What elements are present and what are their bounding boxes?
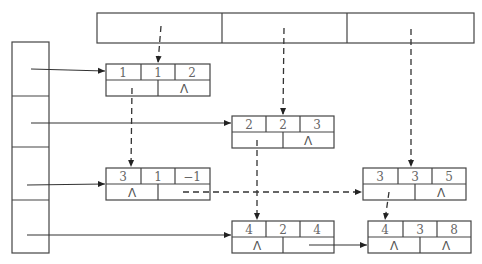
- node-n3: 3 1 −1 Λ: [106, 168, 210, 200]
- node-n5: 4 2 4 Λ: [232, 221, 334, 253]
- node-value: 5: [445, 170, 453, 184]
- node-n4: 3 3 5 Λ: [363, 168, 466, 200]
- node-n1: 1 1 2 Λ: [106, 64, 210, 96]
- node-row: 3: [119, 170, 127, 184]
- node-right: Λ: [437, 186, 446, 200]
- node-col: 2: [279, 118, 287, 132]
- node-right: Λ: [304, 134, 313, 148]
- node-value: 3: [313, 118, 321, 132]
- node-down: Λ: [128, 186, 137, 200]
- node-n2: 2 2 3 Λ: [232, 116, 334, 148]
- node-row: 4: [381, 223, 389, 237]
- node-value: 4: [313, 223, 321, 237]
- node-value: 8: [450, 223, 458, 237]
- node-col: 2: [279, 223, 287, 237]
- node-row: 4: [245, 223, 253, 237]
- node-col: 1: [154, 66, 162, 80]
- node-col: 3: [411, 170, 419, 184]
- node-value: −1: [183, 170, 201, 184]
- orthogonal-list-diagram: 1 1 2 Λ 2 2 3 Λ 3 1 −1 Λ 3 3: [0, 0, 482, 264]
- node-row: 1: [119, 66, 127, 80]
- node-down: Λ: [390, 239, 399, 253]
- node-value: 2: [188, 66, 196, 80]
- column-head-frame: [97, 13, 474, 43]
- node-down: Λ: [253, 239, 262, 253]
- node-col: 1: [154, 170, 162, 184]
- row-head-array: [12, 42, 49, 253]
- node-right: Λ: [442, 239, 451, 253]
- down-link-arrow-n1-n3: [131, 88, 132, 167]
- node-row: 3: [376, 170, 384, 184]
- node-n6: 4 3 8 Λ Λ: [368, 221, 471, 253]
- node-row: 2: [245, 118, 253, 132]
- node-col: 3: [416, 223, 424, 237]
- node-right: Λ: [180, 82, 189, 96]
- column-head-array: [97, 13, 474, 43]
